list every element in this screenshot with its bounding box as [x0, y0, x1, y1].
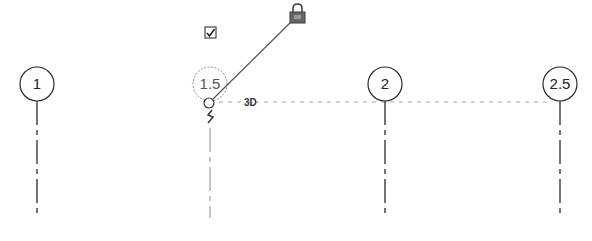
grid-2[interactable]: 2 — [368, 67, 402, 218]
padlock-icon[interactable] — [290, 4, 305, 23]
lock-leader-line — [213, 20, 293, 99]
drawing-canvas[interactable]: 1 1.5 2 2.5 3D — [0, 0, 592, 241]
extent-3d-label[interactable]: 3D — [244, 97, 257, 108]
add-elbow-icon[interactable] — [208, 110, 213, 123]
grid-1[interactable]: 1 — [20, 67, 54, 218]
grid-bubble-label: 2 — [381, 75, 389, 92]
grid-bubble-label: 1.5 — [200, 75, 221, 92]
grid-bubble-label: 1 — [33, 75, 41, 92]
grid-2-5[interactable]: 2.5 — [543, 67, 577, 218]
drag-end-circle-icon[interactable] — [204, 98, 214, 108]
checkbox-checked-icon[interactable] — [205, 27, 216, 38]
grid-bubble-label: 2.5 — [550, 75, 571, 92]
